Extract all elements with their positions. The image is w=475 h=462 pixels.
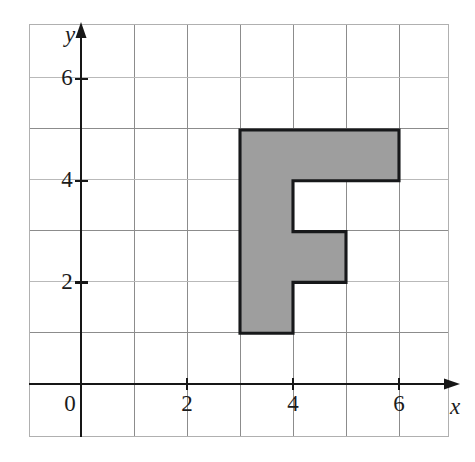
x-tick-label-2: 2 <box>181 391 193 416</box>
y-tick-label-4: 4 <box>61 167 73 192</box>
origin-label: 0 <box>64 391 76 416</box>
coordinate-grid-figure: 0 2 4 6 2 4 6 x y <box>0 0 475 462</box>
x-tick-label-4: 4 <box>287 391 299 416</box>
coordinate-plane-svg: 0 2 4 6 2 4 6 x y <box>0 0 475 462</box>
x-axis-arrowhead <box>444 379 460 390</box>
x-tick-label-6: 6 <box>393 391 405 416</box>
y-tick-label-2: 2 <box>61 269 73 294</box>
x-axis-label: x <box>449 394 461 419</box>
y-tick-label-6: 6 <box>61 65 73 90</box>
y-axis-label: y <box>63 22 76 47</box>
